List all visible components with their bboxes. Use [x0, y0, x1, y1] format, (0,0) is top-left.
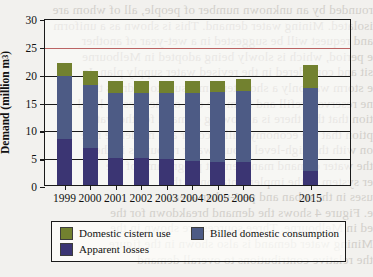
x-axis-tick: [116, 185, 117, 190]
bar-segment-1999-billed-domestic-consumption: [57, 76, 72, 139]
legend-row: Apparent losses: [60, 243, 339, 256]
bar-segment-2005-billed-domestic-consumption: [210, 92, 225, 162]
bar-series-group: [45, 20, 350, 185]
chart-figure: Demand (million m3) 051015202530 1999200…: [0, 0, 373, 277]
y-axis-title-suffix: ): [0, 51, 11, 55]
legend-swatch-apparent-losses: [60, 243, 73, 256]
bar-segment-2002-apparent-losses: [134, 158, 149, 185]
bar-segment-1999-apparent-losses: [57, 139, 72, 185]
bar-segment-2003-domestic-cistern-use: [159, 81, 174, 92]
bar-2000: [83, 71, 98, 185]
bar-segment-2015-apparent-losses: [303, 171, 318, 185]
bar-2001: [108, 81, 123, 185]
bar-2005: [210, 81, 225, 185]
bar-segment-2006-billed-domestic-consumption: [236, 91, 251, 162]
bar-2002: [134, 81, 149, 185]
bar-segment-2004-billed-domestic-consumption: [185, 93, 200, 161]
x-axis-tick-label-2005: 2005: [206, 192, 229, 204]
bar-segment-2005-domestic-cistern-use: [210, 81, 225, 92]
bar-segment-2002-domestic-cistern-use: [134, 81, 149, 92]
bar-segment-2015-billed-domestic-consumption: [303, 88, 318, 171]
legend-label-billed-domestic-consumption: Billed domestic consumption: [210, 228, 339, 239]
x-axis-tick-label-2000: 2000: [79, 192, 102, 204]
y-axis-title-exponent: 3: [1, 55, 10, 59]
bar-segment-2006-apparent-losses: [236, 162, 251, 185]
bar-segment-2002-billed-domestic-consumption: [134, 93, 149, 158]
bar-2006: [236, 79, 251, 185]
x-axis-tick-label-2002: 2002: [130, 192, 153, 204]
bar-segment-2003-apparent-losses: [159, 159, 174, 185]
y-axis-title: Demand (million m3): [0, 19, 12, 186]
x-axis-tick: [90, 185, 91, 190]
bar-segment-2001-domestic-cistern-use: [108, 81, 123, 93]
bar-1999: [57, 63, 72, 185]
x-axis-tick: [65, 185, 66, 190]
y-axis-tick-label: 15: [26, 98, 38, 110]
bar-segment-2004-domestic-cistern-use: [185, 81, 200, 92]
x-axis-tick-label-2001: 2001: [104, 192, 127, 204]
bar-segment-2004-apparent-losses: [185, 161, 200, 185]
bar-segment-2006-domestic-cistern-use: [236, 79, 251, 91]
bar-segment-2005-apparent-losses: [210, 162, 225, 185]
bar-2003: [159, 81, 174, 185]
bar-2004: [185, 81, 200, 185]
legend-row: Domestic cistern use Billed domestic con…: [60, 227, 339, 240]
x-axis-tick: [192, 185, 193, 190]
bar-segment-2003-billed-domestic-consumption: [159, 93, 174, 159]
chart-legend: Domestic cistern use Billed domestic con…: [51, 221, 346, 262]
y-axis-tick-label: 5: [31, 153, 37, 165]
y-axis-title-text: Demand (million m: [0, 59, 11, 154]
x-axis-tick: [141, 185, 142, 190]
bar-segment-2001-apparent-losses: [108, 158, 123, 185]
legend-label-apparent-losses: Apparent losses: [79, 244, 149, 255]
y-axis-tick-label: 0: [31, 181, 37, 193]
bar-segment-2000-apparent-losses: [83, 148, 98, 185]
x-axis-tick: [218, 185, 219, 190]
x-axis-tick: [243, 185, 244, 190]
x-axis-tick: [167, 185, 168, 190]
y-axis-tick-label: 25: [26, 42, 38, 54]
x-axis-tick-label-2006: 2006: [232, 192, 255, 204]
x-axis-tick-label-1999: 1999: [53, 192, 76, 204]
y-axis-tick: [40, 187, 45, 188]
legend-item-billed-domestic-consumption: Billed domestic consumption: [191, 227, 339, 240]
bar-segment-2001-billed-domestic-consumption: [108, 93, 123, 158]
plot-area: 051015202530 199920002001200220032004200…: [44, 19, 351, 186]
x-axis-tick-label-2003: 2003: [155, 192, 178, 204]
legend-swatch-billed-domestic-consumption: [191, 227, 204, 240]
x-axis-tick-label-2015: 2015: [299, 192, 322, 204]
x-axis-tick-label-2004: 2004: [181, 192, 204, 204]
legend-item-domestic-cistern-use: Domestic cistern use: [60, 227, 191, 240]
bar-2015: [303, 65, 318, 185]
legend-swatch-domestic-cistern-use: [60, 227, 73, 240]
bar-segment-2000-billed-domestic-consumption: [83, 85, 98, 148]
y-axis-tick-label: 10: [26, 125, 38, 137]
bar-segment-2000-domestic-cistern-use: [83, 71, 98, 85]
x-axis-tick: [311, 185, 312, 190]
bar-segment-2015-domestic-cistern-use: [303, 65, 318, 87]
y-axis-tick-label: 30: [26, 14, 38, 26]
bar-segment-1999-domestic-cistern-use: [57, 63, 72, 76]
legend-label-domestic-cistern-use: Domestic cistern use: [79, 228, 171, 239]
legend-item-apparent-losses: Apparent losses: [60, 243, 220, 256]
y-axis-tick-label: 20: [26, 70, 38, 82]
